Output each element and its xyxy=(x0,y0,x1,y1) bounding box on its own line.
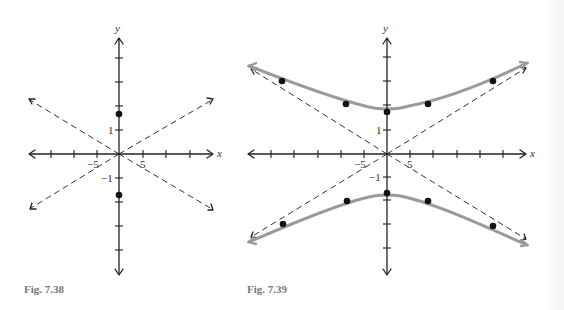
curve-point xyxy=(490,78,497,85)
curve-point xyxy=(343,101,350,108)
curve-point xyxy=(425,198,432,205)
figure-caption: Fig. 7.38 xyxy=(24,283,65,295)
x-tick-label-pos: 5 xyxy=(140,158,146,170)
vertex-point xyxy=(384,190,391,197)
curve-point xyxy=(279,78,286,85)
y-tick-label-pos: 1 xyxy=(108,124,114,136)
asymptote-dashed-line xyxy=(387,68,526,154)
y-tick-label-neg: −1 xyxy=(369,171,381,183)
y-tick-label-neg: −1 xyxy=(101,172,113,184)
x-axis-label: x xyxy=(216,147,222,159)
y-tick-label-pos: 1 xyxy=(376,124,382,136)
vertex-point xyxy=(116,192,123,199)
asymptote-dashed-line xyxy=(119,154,212,209)
asymptote-dashed-line xyxy=(251,154,387,237)
asymptote-dashed-line xyxy=(119,100,212,154)
x-tick-label-pos: 5 xyxy=(407,158,413,170)
x-tick-label-neg: −5 xyxy=(354,158,366,170)
y-axis-label: y xyxy=(114,22,120,34)
y-axis-label: y xyxy=(382,22,388,34)
x-tick-label-neg: −5 xyxy=(87,158,99,170)
hyperbola-lower-branch xyxy=(249,195,527,245)
arrow-icon xyxy=(30,203,36,209)
asymptote-dashed-line xyxy=(251,69,387,154)
vertex-point xyxy=(384,109,391,116)
x-axis-label: x xyxy=(529,147,535,159)
hyperbola-upper-branch xyxy=(249,63,527,109)
figure-7-38: x −5 5 y 1 −1 Fig. 7.38 xyxy=(24,22,222,295)
vertex-point xyxy=(116,111,123,118)
asymptote-dashed-line xyxy=(30,100,119,154)
curve-point xyxy=(425,101,432,108)
figure-7-39: x −5 5 y 1 −1 Fig. 7.39 xyxy=(247,22,535,295)
curve-point xyxy=(490,223,497,230)
figure-caption: Fig. 7.39 xyxy=(247,283,288,295)
curve-point xyxy=(344,198,351,205)
figures-canvas: x −5 5 y 1 −1 Fig. 7.38 xyxy=(0,0,564,310)
curve-point xyxy=(280,221,287,228)
